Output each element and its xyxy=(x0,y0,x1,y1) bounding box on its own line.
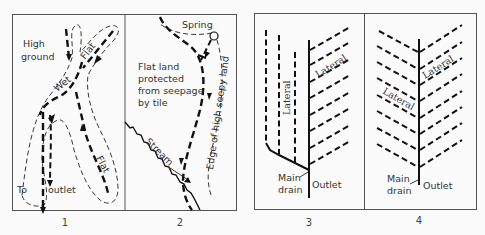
panel-number-1: 1 xyxy=(62,217,68,228)
stream-line xyxy=(125,122,200,210)
flow-arrow-icon xyxy=(94,55,102,64)
herringbone-lateral-right xyxy=(420,123,462,150)
label-outlet: outlet xyxy=(48,184,76,195)
label-main-1: Main xyxy=(387,173,410,184)
label-stream: Stream xyxy=(144,136,176,168)
label-protected-2: protected xyxy=(138,73,184,84)
herringbone-lateral-right xyxy=(420,107,462,134)
herringbone-lateral-left xyxy=(379,31,418,52)
left-frame-group xyxy=(13,15,237,211)
label-to: To xyxy=(16,184,27,195)
panel-number-4: 4 xyxy=(416,215,422,226)
panel-3-gridiron: Lateral Lateral Main drain Outlet 3 xyxy=(266,27,350,228)
panel-1-natural-system: High ground Flat Wet Flat To outlet 1 xyxy=(16,25,118,228)
main-drain-pointer xyxy=(300,172,308,177)
flow-arrow-icon xyxy=(205,51,210,58)
label-main-2: drain xyxy=(387,185,411,196)
label-high-ground-2: ground xyxy=(21,51,55,62)
herringbone-lateral-right xyxy=(420,140,462,167)
panel-number-2: 2 xyxy=(177,217,183,228)
tile-line-left-arm xyxy=(50,115,51,185)
flow-arrow-icon xyxy=(207,93,212,100)
label-main-1: Main xyxy=(278,172,301,183)
label-high-ground-1: High xyxy=(23,38,45,49)
main-drain-pointer xyxy=(410,180,418,184)
panel-number-3: 3 xyxy=(306,217,312,228)
label-flat-lower: Flat xyxy=(94,154,112,175)
tile-line-upper-left xyxy=(66,29,69,58)
herringbone-lateral-right xyxy=(420,91,462,118)
interceptor-tile-line xyxy=(160,17,203,210)
herringbone-lateral-right xyxy=(420,25,462,52)
flow-arrow-icon xyxy=(179,158,184,165)
herringbone-lateral-left xyxy=(377,46,418,69)
label-outlet-3: Outlet xyxy=(312,179,342,190)
main-drain-collector xyxy=(266,143,309,170)
label-edge-of-seepy-land: Edge of high seepy land xyxy=(204,55,231,170)
label-protected-1: Flat land xyxy=(138,61,179,72)
label-outlet-4: Outlet xyxy=(423,180,453,191)
label-spring: Spring xyxy=(182,19,213,30)
label-lateral-diagonal: Lateral xyxy=(313,52,348,80)
label-protected-3: from seepage xyxy=(138,85,204,96)
label-main-2: drain xyxy=(278,184,302,195)
tile-line-right-arm xyxy=(76,92,108,193)
panel-2-interceptor: Spring Flat land protected from seepage … xyxy=(125,17,231,228)
drainage-patterns-figure: High ground Flat Wet Flat To outlet 1 Sp… xyxy=(0,0,485,235)
label-lateral-vertical: Lateral xyxy=(281,80,292,115)
label-protected-4: by tile xyxy=(138,97,168,108)
label-wet: Wet xyxy=(51,73,72,93)
panel-4-herringbone: Lateral Lateral Main drain Outlet 4 xyxy=(377,25,462,226)
diagonal-lateral xyxy=(310,141,350,164)
